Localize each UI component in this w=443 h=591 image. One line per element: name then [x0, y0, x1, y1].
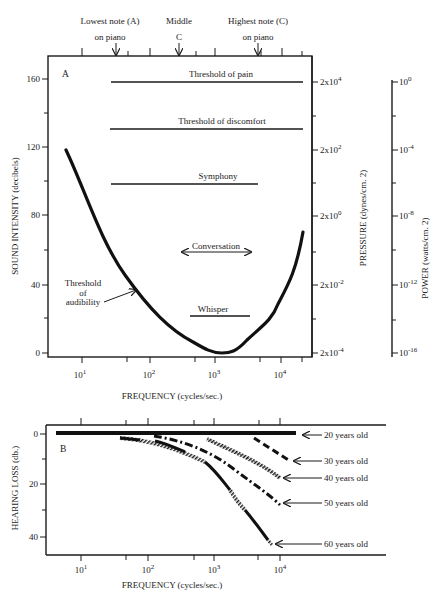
x-tick-label: 103 — [208, 368, 221, 380]
annotation-middle-c-line1: Middle — [166, 16, 192, 26]
panel-a-frame — [48, 56, 312, 357]
y-tick-label: 80 — [31, 210, 41, 220]
legend-60-years: 60 years old — [324, 539, 368, 549]
hearing-figure: Lowest note (A) on piano Middle C Highes… — [0, 0, 443, 591]
top-annotations: Lowest note (A) on piano Middle C Highes… — [81, 16, 288, 55]
y-tick-label: 160 — [27, 74, 41, 84]
x-tick-label: 103 — [208, 563, 221, 575]
y-tick-label: 40 — [29, 532, 39, 542]
panel-b: 0 20 40 HEARING LOSS (db.) B 101 102 103… — [10, 418, 386, 590]
y-tick-label: 120 — [27, 142, 41, 152]
pressure-tick-label: 2x10-2 — [320, 278, 344, 290]
panel-b-top-ticks — [81, 418, 280, 425]
series-60-years-hatched-2 — [230, 490, 245, 510]
x-axis-bottom-labels: 101 102 103 104 — [74, 368, 287, 380]
label-threshold-of-discomfort: Threshold of discomfort — [178, 116, 266, 126]
legend-20-years: 20 years old — [324, 430, 368, 440]
legend-30-years: 30 years old — [324, 456, 368, 466]
x-tick-label: 101 — [75, 563, 88, 575]
label-whisper: Whisper — [198, 304, 229, 314]
panel-b-y-ticks — [40, 434, 46, 537]
label-symphony: Symphony — [198, 171, 238, 181]
y-axis-title-hearing-loss: HEARING LOSS (db.) — [10, 446, 20, 530]
annotation-lowest-note-line2: on piano — [94, 32, 126, 42]
threshold-of-audibility-label: Threshold of audibility — [65, 278, 136, 307]
annotation-highest-note-line2: on piano — [242, 32, 274, 42]
annotation-middle-c-line2: C — [176, 32, 182, 42]
power-tick-label: 10-8 — [399, 209, 414, 221]
reference-levels: Threshold of pain Threshold of discomfor… — [110, 69, 303, 316]
y-tick-label: 20 — [29, 479, 39, 489]
svg-text:audibility: audibility — [66, 297, 101, 307]
pressure-tick-label: 2x102 — [320, 143, 342, 155]
series-60-years-solid-4 — [245, 510, 268, 540]
svg-text:Threshold: Threshold — [65, 278, 102, 288]
pressure-axis: 2x104 2x102 2x100 2x10-2 2x10-4 PRESSURE… — [312, 56, 368, 358]
pressure-axis-title: PRESSURE (dynes/cm. 2) — [358, 170, 368, 266]
x-axis-title-a: FREQUENCY (cycles/sec.) — [122, 391, 223, 401]
x-tick-label: 101 — [74, 368, 87, 380]
y-axis-title-intensity: SOUND INTENSITY (decibels) — [10, 157, 20, 275]
y-tick-label: 0 — [34, 429, 39, 439]
power-tick-label: 10-16 — [399, 346, 418, 358]
legend-40-years: 40 years old — [324, 473, 368, 483]
power-axis: 100 10-4 10-8 10-12 10-16 POWER (watts/c… — [392, 75, 430, 358]
x-tick-label: 102 — [143, 368, 156, 380]
legend: 20 years old 30 years old 40 years old 5… — [276, 430, 368, 549]
top-axis-ticks — [82, 48, 302, 56]
y-axis-left-labels: 160 120 80 40 0 — [27, 74, 41, 358]
power-axis-title: POWER (watts/cm. 2) — [420, 217, 430, 298]
x-tick-label: 104 — [274, 368, 287, 380]
pressure-tick-label: 2x104 — [320, 75, 342, 87]
label-threshold-of-pain: Threshold of pain — [189, 69, 253, 79]
panel-b-bottom-ticks — [81, 555, 280, 561]
x-tick-label: 102 — [142, 563, 155, 575]
y-axis-left — [42, 79, 48, 353]
legend-50-years: 50 years old — [324, 498, 368, 508]
pressure-tick-label: 2x100 — [320, 209, 342, 221]
pressure-tick-label: 2x10-4 — [320, 346, 344, 358]
label-conversation: Conversation — [192, 241, 240, 251]
series-60-years-end — [268, 540, 272, 545]
x-tick-label: 104 — [274, 563, 287, 575]
series-30-years — [254, 438, 290, 461]
panel-a: Lowest note (A) on piano Middle C Highes… — [10, 16, 430, 401]
panel-b-label: B — [60, 444, 66, 454]
x-axis-title-b: FREQUENCY (cycles/sec.) — [122, 580, 223, 590]
y-tick-label: 0 — [36, 348, 41, 358]
series-60-years-solid-3 — [205, 462, 230, 490]
panel-a-label: A — [62, 69, 69, 79]
x-axis-bottom — [82, 357, 302, 363]
series-60-years-solid-1 — [120, 438, 140, 440]
y-tick-label: 40 — [31, 280, 41, 290]
power-tick-label: 10-4 — [399, 143, 414, 155]
annotation-highest-note-line1: Highest note (C) — [228, 16, 288, 26]
power-tick-label: 100 — [399, 75, 412, 87]
arrow-icon — [104, 290, 136, 302]
annotation-lowest-note-line1: Lowest note (A) — [81, 16, 140, 26]
power-tick-label: 10-12 — [399, 278, 418, 290]
